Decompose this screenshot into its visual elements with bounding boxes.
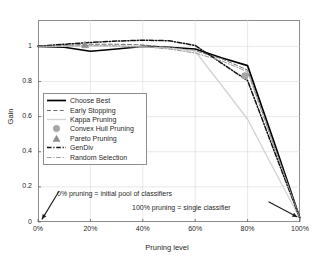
- convex-hull-marker: [242, 72, 249, 79]
- legend-item[interactable]: GenDiv: [46, 143, 143, 152]
- x-tick-label: 20%: [73, 225, 107, 232]
- x-tick-label: 80%: [231, 225, 265, 232]
- legend-key-icon: [46, 134, 67, 143]
- legend-label: Choose Best: [67, 96, 110, 105]
- x-tick-label: 60%: [178, 225, 212, 232]
- chart-root: 00.20.40.60.81 0%20%40%60%80%100% Gain P…: [0, 0, 321, 262]
- annotation-zero-pruning: 0% pruning = initial pool of classifiers: [57, 190, 172, 197]
- legend-key-icon: [46, 153, 67, 162]
- y-tick-label: 0: [6, 218, 32, 225]
- legend-item[interactable]: Choose Best: [46, 96, 143, 105]
- x-tick-label: 100%: [283, 225, 317, 232]
- legend-key-icon: [46, 143, 67, 152]
- legend-label: Kappa Pruning: [67, 115, 116, 124]
- legend-item[interactable]: Random Selection: [46, 152, 143, 161]
- chart-legend: Choose BestEarly StoppingKappa PruningCo…: [43, 93, 147, 165]
- legend-item[interactable]: Pareto Pruning: [46, 134, 143, 143]
- legend-label: GenDiv: [67, 143, 93, 152]
- legend-item[interactable]: Early Stopping: [46, 105, 143, 114]
- legend-label: Early Stopping: [67, 106, 116, 115]
- legend-item[interactable]: Kappa Pruning: [46, 115, 143, 124]
- y-axis-title: Gain: [6, 95, 15, 139]
- annotation-full-pruning: 100% pruning = single classifier: [132, 204, 231, 211]
- legend-key-icon: [46, 115, 67, 124]
- x-axis-title: Pruning level: [117, 243, 217, 252]
- legend-key-icon: [46, 106, 67, 115]
- x-tick-label: 0%: [21, 225, 55, 232]
- y-tick-label: 0.2: [6, 182, 32, 189]
- legend-label: Convex Hull Pruning: [67, 124, 134, 133]
- y-tick-label: 0.8: [6, 77, 32, 84]
- y-tick-label: 0.4: [6, 147, 32, 154]
- legend-key-icon: [46, 96, 67, 105]
- legend-label: Random Selection: [67, 153, 127, 162]
- legend-key-icon: [46, 124, 67, 133]
- y-tick-label: 1: [6, 42, 32, 49]
- legend-label: Pareto Pruning: [67, 134, 117, 143]
- x-tick-label: 40%: [126, 225, 160, 232]
- legend-item[interactable]: Convex Hull Pruning: [46, 124, 143, 133]
